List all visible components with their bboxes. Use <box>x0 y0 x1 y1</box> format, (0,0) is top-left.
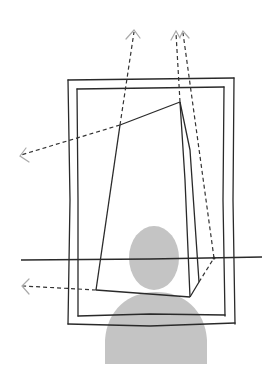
ray-left-lower <box>23 286 96 290</box>
ray-up-right <box>183 33 214 258</box>
arrowhead-up-left-icon <box>126 30 140 39</box>
ray-connector <box>199 258 214 282</box>
dashed-rays <box>21 32 214 290</box>
ray-left-upper <box>21 125 120 155</box>
person-body <box>105 292 207 364</box>
ray-up-left <box>120 32 134 125</box>
diagram-canvas <box>0 0 276 378</box>
arrowhead-up-right-icon <box>180 31 189 38</box>
intersection-point <box>213 257 216 260</box>
ray-up-middle <box>176 33 180 102</box>
arrowhead-left-upper-icon <box>20 148 29 162</box>
arrowhead-up-middle-icon <box>171 31 180 40</box>
